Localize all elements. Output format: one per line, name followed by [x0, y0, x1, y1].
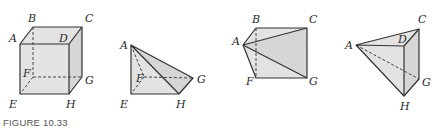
label-D: D	[397, 33, 407, 46]
label-D: D	[58, 32, 68, 45]
label-A: A	[344, 39, 353, 52]
label-E: E	[119, 98, 128, 111]
label-C: C	[309, 13, 318, 26]
label-C: C	[85, 12, 94, 25]
pyramid-abcfg-figure: B C A F G	[231, 13, 318, 88]
figure-10-33-diagram: B C A D F G E H A F G E H B C A F G	[0, 0, 436, 134]
pyramid-aefgh-figure: A F G E H	[119, 39, 206, 111]
pyramid-acdgh-figure: A C D G H	[344, 13, 431, 113]
label-E: E	[8, 98, 17, 111]
label-F: F	[245, 75, 254, 88]
label-B: B	[27, 12, 36, 25]
label-B: B	[251, 13, 260, 26]
label-A: A	[231, 35, 240, 48]
label-H: H	[175, 98, 186, 111]
label-G: G	[422, 76, 431, 89]
figure-caption: FIGURE 10.33	[3, 117, 68, 128]
label-H: H	[399, 100, 410, 113]
label-G: G	[197, 73, 206, 86]
cube-figure: B C A D F G E H	[8, 12, 94, 111]
label-F: F	[22, 67, 31, 80]
label-A: A	[8, 32, 17, 45]
label-G: G	[309, 75, 318, 88]
label-G: G	[85, 74, 94, 87]
label-C: C	[418, 13, 427, 26]
label-F: F	[135, 72, 144, 85]
label-A: A	[119, 39, 128, 52]
label-H: H	[65, 98, 76, 111]
